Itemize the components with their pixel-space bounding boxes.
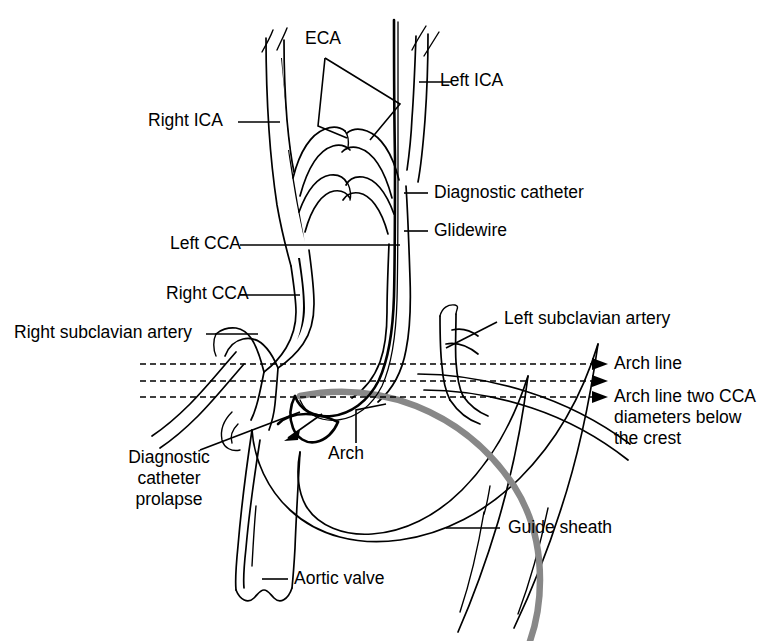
left-subclavian-trunk-left bbox=[440, 316, 450, 400]
arch-line-2-arrowhead bbox=[592, 375, 608, 387]
label-arch-line: Arch line bbox=[614, 353, 682, 374]
label-guide-sheath: Guide sheath bbox=[508, 517, 612, 538]
prolapse-line-3: prolapse bbox=[135, 489, 202, 509]
right-subclavian-tip bbox=[214, 334, 216, 356]
left-subclavian-to-arch-b bbox=[463, 396, 488, 416]
left-ica-tip-branch-b bbox=[424, 32, 439, 56]
label-leader-lines bbox=[200, 58, 500, 579]
left-subclavian-origin-notch bbox=[440, 305, 458, 316]
label-left-subclavian-artery: Left subclavian artery bbox=[504, 308, 670, 329]
innominate-lateral-wall bbox=[251, 372, 264, 420]
arch-root-left-curl-b bbox=[231, 424, 238, 443]
ascending-aorta-right-wall-inner bbox=[252, 506, 256, 566]
left-ica-lateral-wall-outer bbox=[418, 34, 428, 182]
right-eca-inner-wall bbox=[300, 145, 350, 196]
right-eca-branch-2-outer bbox=[299, 175, 347, 212]
label-right-subclavian-artery: Right subclavian artery bbox=[14, 322, 192, 343]
anatomical-diagram: ECA Left ICA Right ICA Diagnostic cathet… bbox=[0, 0, 761, 641]
guide-sheath-path bbox=[300, 392, 540, 641]
right-ica-lateral-wall bbox=[266, 38, 291, 266]
label-right-ica: Right ICA bbox=[148, 110, 223, 131]
label-diagnostic-catheter: Diagnostic catheter bbox=[434, 182, 584, 203]
aorta bbox=[236, 344, 598, 632]
arch-line-3-arrowhead bbox=[592, 391, 608, 403]
left-cca-medial-wall bbox=[352, 244, 389, 398]
aortic-valve-cusps bbox=[236, 588, 292, 601]
right-cca-shading bbox=[297, 258, 305, 340]
label-diagnostic-catheter-prolapse: Diagnostic catheter prolapse bbox=[108, 447, 230, 510]
left-ica-tip-branch-a bbox=[412, 26, 426, 50]
label-arch-line-two-cca: Arch line two CCA diameters below the cr… bbox=[614, 386, 756, 449]
label-left-cca: Left CCA bbox=[170, 233, 241, 254]
right-eca-branch-2-inner bbox=[305, 191, 350, 232]
arch-line-1-arrowhead bbox=[592, 358, 608, 370]
prolapse-line-1: Diagnostic bbox=[128, 447, 210, 467]
label-glidewire: Glidewire bbox=[434, 220, 507, 241]
arch-leader bbox=[356, 404, 386, 443]
arch-root-left-curl-a bbox=[221, 412, 240, 451]
arch-reference-lines bbox=[140, 358, 608, 403]
prolapse-line-2: catheter bbox=[137, 468, 200, 488]
right-eca-outer-wall bbox=[293, 127, 345, 178]
label-right-cca: Right CCA bbox=[166, 283, 249, 304]
diagnostic-catheter-path bbox=[278, 20, 395, 442]
left-subclavian-leader bbox=[446, 322, 497, 348]
arch-line-two-cca-text: Arch line two CCA diameters below the cr… bbox=[614, 386, 755, 448]
right-ica-tip-branch-b bbox=[277, 28, 287, 50]
label-eca: ECA bbox=[305, 28, 341, 49]
label-left-ica: Left ICA bbox=[440, 70, 503, 91]
guide-sheath-curve bbox=[300, 392, 540, 641]
label-arch: Arch bbox=[328, 443, 364, 464]
label-aortic-valve: Aortic valve bbox=[294, 568, 384, 589]
right-cca-lateral-wall bbox=[264, 266, 296, 372]
descending-aorta-medial-wall bbox=[458, 376, 528, 632]
left-subclavian-trunk-right bbox=[456, 314, 463, 396]
eca-leader-left bbox=[318, 58, 347, 138]
right-ica-tip-branch-a bbox=[262, 30, 273, 52]
left-subclavian-to-arch-a bbox=[450, 400, 480, 424]
left-ica-lateral-wall bbox=[407, 36, 416, 170]
descending-aorta-inner-streak-c bbox=[484, 486, 490, 514]
right-ica-shading bbox=[281, 58, 294, 172]
